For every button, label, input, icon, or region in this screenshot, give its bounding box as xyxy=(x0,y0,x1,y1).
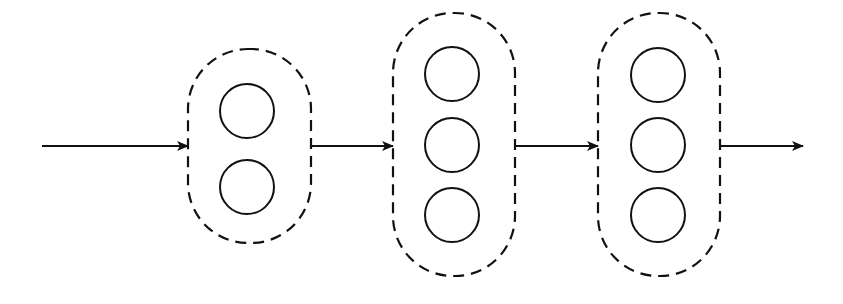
neuron-node xyxy=(220,160,274,214)
layer-3 xyxy=(598,13,720,276)
neuron-node xyxy=(631,48,685,102)
neuron-node xyxy=(425,118,479,172)
layer-2 xyxy=(393,13,515,276)
neuron-node xyxy=(631,188,685,242)
neuron-node xyxy=(220,84,274,138)
diagram-canvas xyxy=(0,0,843,304)
neuron-node xyxy=(425,47,479,101)
layer-boundary xyxy=(598,13,720,276)
layers-group xyxy=(188,13,720,276)
layer-boundary xyxy=(393,13,515,276)
layer-1 xyxy=(188,49,311,243)
layered-network-diagram xyxy=(0,0,843,304)
neuron-node xyxy=(631,118,685,172)
neuron-node xyxy=(425,188,479,242)
